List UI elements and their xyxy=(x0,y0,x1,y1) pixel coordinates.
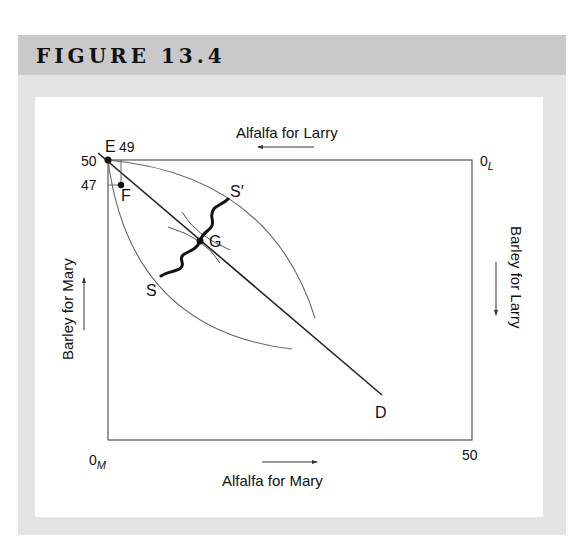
edgeworth-box-diagram: E F G D S S′ 49 50 47 50 0M 0L Alfalfa f… xyxy=(0,0,586,559)
bottom-axis-label: Alfalfa for Mary xyxy=(222,472,323,489)
tick-50-bottom: 50 xyxy=(462,447,478,463)
top-axis-label: Alfalfa for Larry xyxy=(236,124,338,141)
point-E xyxy=(105,157,112,164)
left-arrow-icon xyxy=(257,145,263,149)
edgeworth-box xyxy=(108,160,472,440)
label-D: D xyxy=(375,404,387,421)
origin-mary: 0M xyxy=(89,452,107,471)
tick-47: 47 xyxy=(81,177,97,193)
label-G: G xyxy=(209,233,221,250)
tick-50-left: 50 xyxy=(81,153,97,169)
label-S-prime: S′ xyxy=(230,183,244,200)
mary-indifference-curve xyxy=(108,160,292,349)
down-arrow-icon xyxy=(494,310,498,316)
left-axis-label: Barley for Mary xyxy=(59,258,76,360)
point-G xyxy=(197,238,204,245)
right-axis-label: Barley for Larry xyxy=(508,226,525,329)
tick-49: 49 xyxy=(119,139,135,155)
label-F: F xyxy=(121,187,131,204)
label-S: S xyxy=(146,282,157,299)
up-arrow-icon xyxy=(82,277,86,283)
label-E: E xyxy=(105,138,116,155)
origin-larry: 0L xyxy=(480,153,494,172)
right-arrow-icon xyxy=(312,460,318,464)
